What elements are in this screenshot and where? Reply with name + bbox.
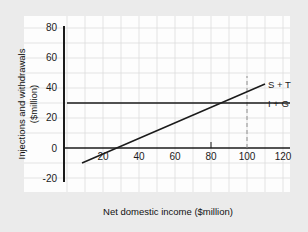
y-tick-label-40: 40 — [46, 82, 58, 93]
series-label-i-plus-g: I + G — [268, 98, 289, 109]
x-tick-label-40: 40 — [133, 151, 145, 162]
chart-canvas: 80 60 40 20 0 -20 20 40 60 80 100 120 S … — [0, 0, 308, 232]
y-tick-label-60: 60 — [46, 52, 58, 63]
series-label-s-plus-t: S + T — [268, 79, 291, 90]
y-axis-title-line2: ($million) — [28, 85, 39, 124]
y-tick-label-20: 20 — [46, 112, 58, 123]
y-axis-title-line1: Injections and withdrawals — [16, 48, 27, 159]
y-tick-label-80: 80 — [46, 22, 58, 33]
x-tick-label-60: 60 — [169, 151, 181, 162]
x-tick-label-100: 100 — [239, 151, 256, 162]
x-tick-label-80: 80 — [205, 151, 217, 162]
x-tick-label-120: 120 — [275, 151, 292, 162]
x-axis-title: Net domestic income ($million) — [103, 206, 233, 217]
y-tick-label-minus20: -20 — [43, 173, 58, 184]
y-tick-label-0: 0 — [51, 143, 57, 154]
chart-figure: 80 60 40 20 0 -20 20 40 60 80 100 120 S … — [0, 0, 308, 232]
